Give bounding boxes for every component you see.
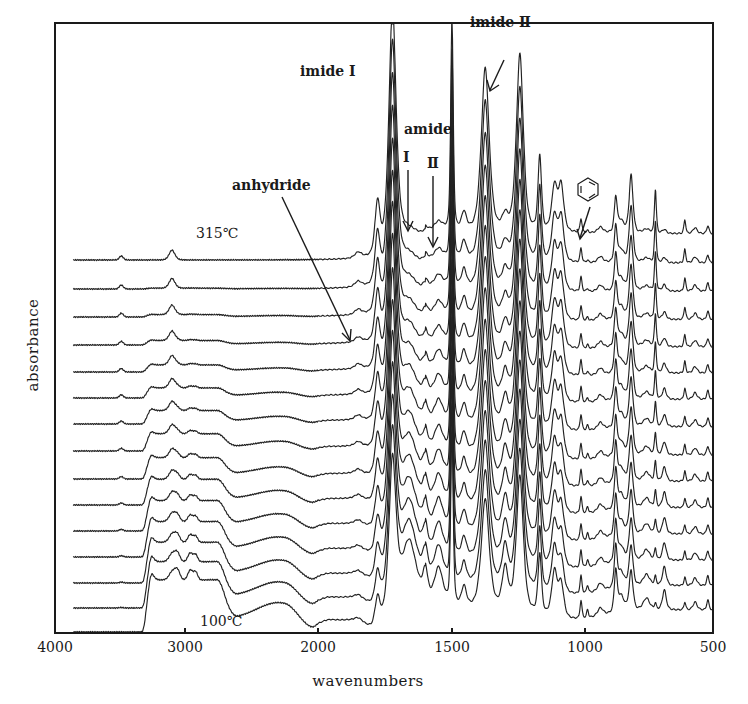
temp-100-label: 100℃ [200,613,242,629]
ftir-chart: 40003000200015001000500 wavenumbers abso… [0,0,748,704]
amide-II-arrow-icon [428,176,438,247]
anhydride-arrow-icon [282,197,351,341]
amide-label: amide [404,121,452,137]
amide-I-label: Ⅰ [403,149,410,165]
amide-II-label: Ⅱ [427,155,439,171]
benzene-ring-icon [578,178,598,201]
x-tick-label: 4000 [37,639,73,655]
x-tick-label: 500 [700,639,727,655]
imide-I-label: imide Ⅰ [300,63,356,79]
x-tick-label: 1500 [434,639,470,655]
spectra-traces [73,24,713,633]
temp-315-label: 315℃ [196,225,238,241]
x-tick-label: 3000 [167,639,203,655]
y-axis-label: absorbance [24,299,42,392]
benzene-arrow-icon [577,207,590,239]
x-tick-label: 1000 [567,639,603,655]
x-tick-label: 2000 [300,639,336,655]
amide-I-arrow-icon [403,170,413,231]
x-axis-label: wavenumbers [312,672,424,690]
imide-II-label: imide Ⅱ [470,14,531,30]
imide-II-arrow-icon [487,60,504,91]
anhydride-label: anhydride [232,177,311,193]
